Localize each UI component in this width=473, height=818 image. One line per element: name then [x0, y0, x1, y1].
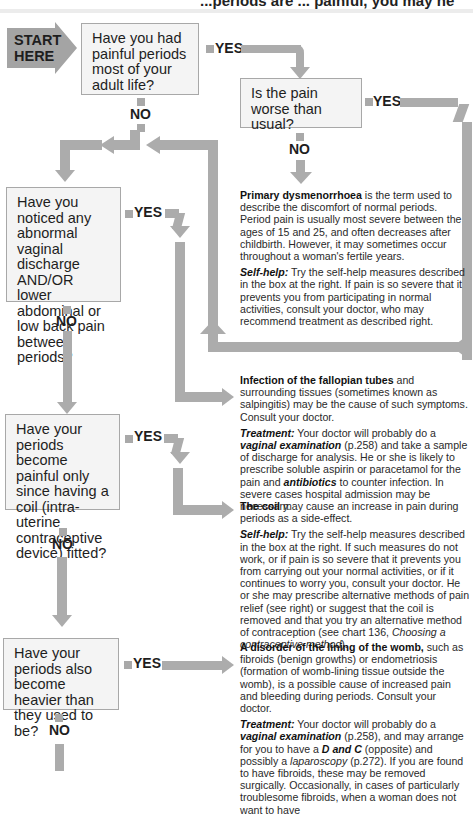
header-rule — [0, 9, 473, 13]
no-label: NO — [130, 106, 151, 122]
arrow-down-icon — [290, 45, 310, 79]
question-text: Have you had painful periods most of you… — [92, 30, 186, 93]
question-text: Is the pain worse than usual? — [251, 85, 322, 132]
yes-label: YES — [215, 40, 243, 56]
no-label: NO — [52, 536, 73, 552]
outcome-dysmenorrhoea: Primary dysmenorrhoea is the term used t… — [240, 189, 465, 331]
question-box-heavier: Have your periods also become heavier th… — [3, 638, 119, 710]
question-box-pain-worse: Is the pain worse than usual? — [240, 78, 362, 128]
start-line2: HERE — [14, 48, 61, 64]
start-line1: START — [14, 32, 61, 48]
yes-label: YES — [134, 204, 162, 220]
arrow-down-icon — [290, 172, 312, 184]
yes-label: YES — [373, 93, 401, 109]
question-text: Have you noticed any abnormal vaginal di… — [17, 194, 105, 365]
no-label: NO — [56, 313, 77, 329]
question-box-adult-life: Have you had painful periods most of you… — [81, 23, 199, 95]
start-label: START HERE — [14, 32, 61, 64]
no-label: NO — [49, 722, 70, 738]
outcome-womb-disorder: A disorder of the lining of the womb, su… — [240, 641, 470, 818]
yes-label: YES — [134, 428, 162, 444]
question-box-discharge: Have you noticed any abnormal vaginal di… — [6, 187, 121, 302]
header-partial-text: ...periods are ... painful, you may ne — [200, 0, 454, 9]
outcome-coil: The coil may cause an increase in pain d… — [240, 500, 470, 654]
no-label: NO — [289, 141, 310, 157]
yes-label: YES — [133, 655, 161, 671]
outcome-infection: Infection of the fallopian tubes and sur… — [240, 374, 470, 516]
question-box-coil: Have your periods become painful only si… — [5, 414, 120, 510]
